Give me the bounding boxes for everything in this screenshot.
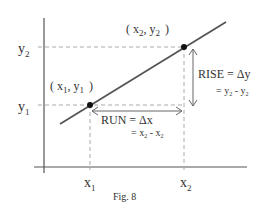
point-1-label: ( x1, y1) <box>50 79 93 95</box>
rise-label: RISE = Δy <box>198 67 251 81</box>
run-formula: = x2 - x2 <box>131 127 163 139</box>
run-label: RUN = Δx <box>101 113 153 127</box>
point-2 <box>181 44 187 50</box>
figure-caption: Fig. 8 <box>113 191 136 202</box>
x1-label: x1 <box>84 175 96 193</box>
point-2-label: ( x2, y2) <box>126 22 169 38</box>
rise-arrow <box>189 49 197 106</box>
slope-diagram: y2 y1 x1 x2 ( x1, y1) ( x2, y2) RISE = Δ… <box>0 0 271 214</box>
x2-label: x2 <box>180 175 192 193</box>
y1-label: y1 <box>18 99 30 117</box>
point-1 <box>87 102 93 108</box>
y2-label: y2 <box>18 41 30 59</box>
rise-formula: = y2 - y2 <box>216 85 248 97</box>
